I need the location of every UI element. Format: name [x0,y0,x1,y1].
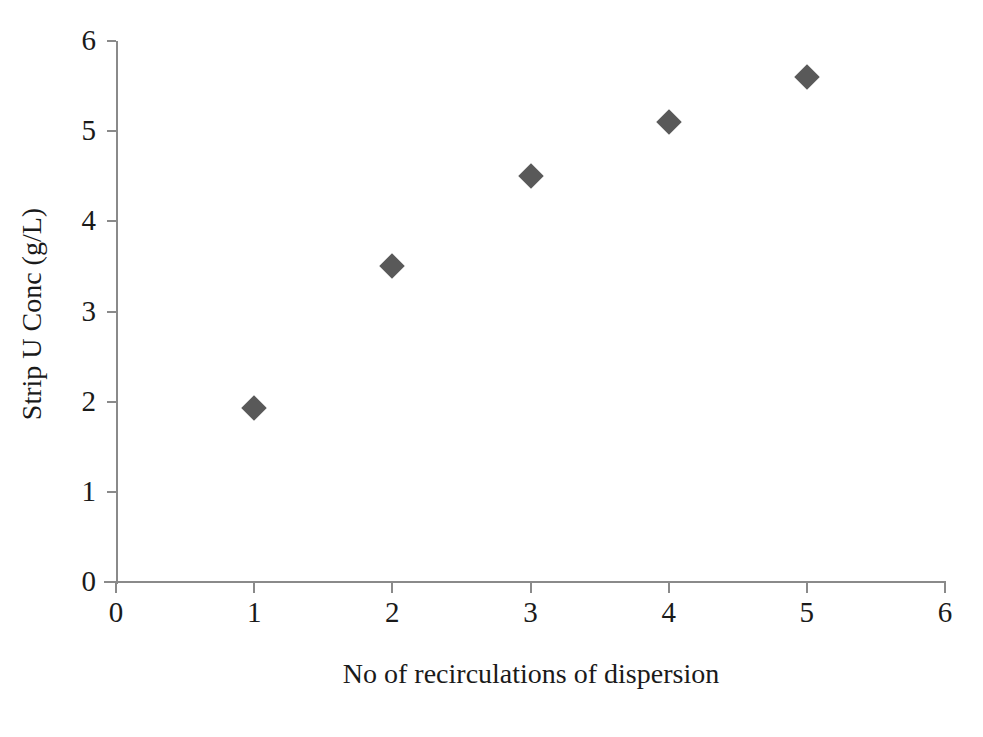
y-axis-tick [107,401,116,403]
x-axis-tick-label: 3 [506,598,556,627]
y-axis-tick-label: 0 [56,567,96,596]
y-axis-tick [107,311,116,313]
y-axis-tick-label: 4 [56,206,96,235]
x-axis-tick-label: 6 [920,598,970,627]
scatter-chart-figure: 0123456 0123456 Strip U Conc (g/L) No of… [0,0,983,737]
x-axis-tick [668,583,670,593]
x-axis-tick [530,583,532,593]
diamond-icon [656,109,681,134]
x-axis-tick-label: 5 [782,598,832,627]
y-axis-tick-label: 2 [56,387,96,416]
diamond-icon [241,395,266,420]
data-point-marker [518,163,544,189]
y-axis-tick-label: 3 [56,297,96,326]
y-axis-tick-label: 1 [56,477,96,506]
y-axis-tick [107,220,116,222]
x-axis-tick [391,583,393,593]
x-axis-tick [253,583,255,593]
x-axis-tick-label: 4 [644,598,694,627]
x-axis-tick-label: 0 [91,598,141,627]
y-axis-tick [107,40,116,42]
x-axis-tick [115,583,117,593]
x-axis-title: No of recirculations of dispersion [116,660,946,688]
y-axis-title: Strip U Conc (g/L) [18,74,46,554]
y-axis-tick [107,491,116,493]
diamond-icon [794,64,819,89]
x-axis-tick-label: 1 [229,598,279,627]
x-axis-tick [944,583,946,593]
data-point-marker [794,64,820,90]
y-axis-tick-label: 6 [56,26,96,55]
data-point-marker [241,395,267,421]
diamond-icon [380,254,405,279]
diamond-icon [518,164,543,189]
plot-area [116,41,945,582]
y-axis-tick [107,130,116,132]
x-axis-tick-label: 2 [367,598,417,627]
y-axis-tick-label: 5 [56,116,96,145]
data-point-marker [379,253,405,279]
x-axis-tick [806,583,808,593]
data-point-marker [656,109,682,135]
